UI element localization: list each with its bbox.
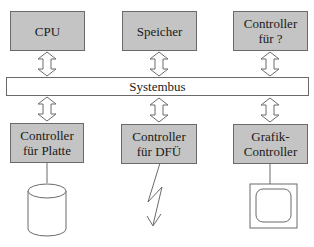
dfu-controller-label-2: für DFÜ	[137, 144, 181, 159]
double-arrow-icon	[38, 52, 56, 76]
disk-controller-box: Controller für Platte	[10, 123, 84, 163]
double-arrow-icon	[261, 52, 279, 76]
controller-unknown-label-2: für ?	[258, 31, 282, 46]
disk-controller-label-1: Controller	[20, 128, 73, 143]
cpu-label: CPU	[35, 24, 60, 39]
lightning-icon	[147, 163, 162, 226]
graphics-controller-box: Grafik- Controller	[233, 124, 308, 164]
disk-cylinder-icon	[28, 163, 66, 236]
dfu-controller-box: Controller für DFÜ	[121, 124, 197, 164]
graphics-controller-label-1: Grafik-	[251, 129, 289, 144]
double-arrow-icon	[38, 97, 56, 121]
monitor-icon	[250, 163, 297, 228]
double-arrow-icon	[261, 98, 279, 122]
disk-controller-label-2: für Platte	[23, 143, 71, 158]
double-arrow-icon	[150, 52, 168, 76]
graphics-controller-label-2: Controller	[244, 144, 297, 159]
memory-box: Speicher	[122, 11, 197, 51]
system-bus: Systembus	[6, 77, 309, 96]
memory-label: Speicher	[137, 24, 182, 39]
controller-unknown-box: Controller für ?	[233, 11, 308, 51]
controller-unknown-label-1: Controller	[244, 16, 297, 31]
system-bus-label: Systembus	[129, 79, 185, 95]
double-arrow-icon	[150, 98, 168, 122]
dfu-controller-label-1: Controller	[132, 129, 185, 144]
cpu-box: CPU	[10, 11, 85, 51]
